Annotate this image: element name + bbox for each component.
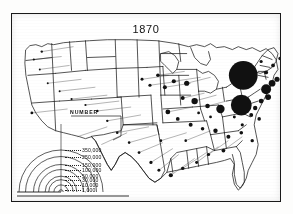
city-symbol xyxy=(165,110,170,115)
city-symbol xyxy=(148,84,151,87)
city-symbol xyxy=(47,82,49,84)
city-symbol xyxy=(184,139,187,142)
city-symbol xyxy=(241,123,244,126)
city-symbol xyxy=(249,113,253,117)
city-symbol xyxy=(70,98,72,100)
city-symbol xyxy=(41,50,43,52)
legend-leader-line xyxy=(65,170,81,171)
legend-value-label: 250,000 xyxy=(82,154,101,160)
city-symbol xyxy=(33,58,35,60)
city-symbol xyxy=(141,78,144,81)
city-symbol xyxy=(269,80,276,87)
city-symbol xyxy=(229,61,258,90)
city-symbol xyxy=(216,105,224,113)
city-symbol xyxy=(201,127,205,131)
city-symbol xyxy=(59,90,61,92)
city-symbol xyxy=(264,70,268,74)
legend-entry: 1,000 xyxy=(65,187,131,194)
legend-value-label: 1,000 xyxy=(82,187,96,193)
city-symbol xyxy=(251,139,254,142)
city-symbol xyxy=(253,67,256,70)
city-symbol xyxy=(157,169,160,172)
city-symbol xyxy=(197,112,200,115)
map-stage: 1870 NUMBER 350,000250,000150,000100,000… xyxy=(12,14,280,201)
city-symbol xyxy=(184,81,189,86)
city-symbol xyxy=(233,115,236,118)
legend-title: NUMBER xyxy=(70,109,98,115)
city-symbol xyxy=(39,68,41,70)
legend-leader-line xyxy=(65,190,81,191)
city-symbol xyxy=(189,123,193,127)
city-symbol xyxy=(209,116,212,119)
city-symbol xyxy=(156,74,160,78)
city-symbol xyxy=(222,149,226,153)
city-symbol xyxy=(138,151,141,154)
city-symbol xyxy=(169,173,173,177)
legend-leader-line xyxy=(65,157,81,158)
year-label: 1870 xyxy=(12,23,280,35)
figure-root: 1870 NUMBER 350,000250,000150,000100,000… xyxy=(0,0,293,214)
map-frame: 1870 NUMBER 350,000250,000150,000100,000… xyxy=(11,13,281,202)
city-symbol xyxy=(231,95,252,116)
city-symbol xyxy=(195,161,198,164)
city-symbol xyxy=(149,161,152,164)
city-symbol xyxy=(205,104,210,109)
city-symbol xyxy=(207,153,210,156)
legend-leader-line xyxy=(65,150,81,151)
legend-entry: 250,000 xyxy=(65,153,131,160)
city-symbol xyxy=(163,85,167,89)
city-symbol xyxy=(160,139,163,142)
city-symbol xyxy=(191,98,197,104)
city-symbol xyxy=(257,117,261,121)
city-symbol xyxy=(181,167,184,170)
legend: NUMBER 350,000250,000150,000100,00050,00… xyxy=(13,104,133,200)
city-symbol xyxy=(265,94,271,100)
city-symbol xyxy=(240,131,244,135)
city-symbol xyxy=(172,79,176,83)
city-symbol xyxy=(260,60,263,63)
city-symbol xyxy=(259,99,264,104)
city-symbol xyxy=(271,64,275,68)
city-symbol xyxy=(176,117,180,121)
city-symbol xyxy=(278,57,280,60)
city-symbol xyxy=(213,129,217,133)
city-symbol xyxy=(226,135,230,139)
city-symbol xyxy=(181,96,185,100)
city-symbol xyxy=(274,77,279,82)
city-symbol xyxy=(261,84,271,94)
city-symbol xyxy=(253,106,257,110)
